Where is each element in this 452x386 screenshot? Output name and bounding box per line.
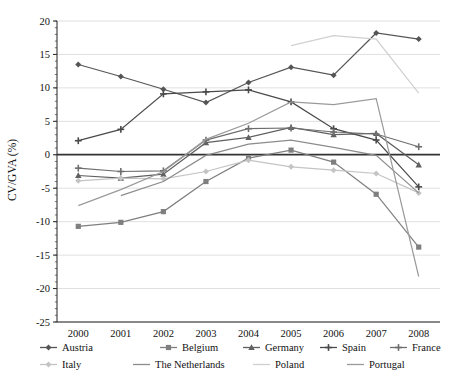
x-axis-tick-label: 2004 (238, 328, 260, 339)
data-point-marker (118, 220, 123, 225)
y-axis-tick-label: 10 (40, 82, 51, 93)
y-axis-tick-label: 15 (40, 49, 51, 60)
y-axis-tick-label: 0 (45, 149, 50, 160)
data-point-marker (76, 224, 81, 229)
x-axis-tick-labels: 200020012002200320042005200620072008 (68, 328, 429, 339)
x-axis-tick-label: 2001 (110, 328, 131, 339)
y-axis-tick-label: -10 (36, 216, 50, 227)
line-chart: 20151050-5-10-15-20-25 20002001200220032… (0, 0, 452, 386)
data-point-marker (374, 192, 379, 197)
data-point-marker (166, 345, 171, 350)
x-axis-tick-label: 2006 (323, 328, 344, 339)
y-axis-tick-label: -15 (36, 250, 50, 261)
y-axis-tick-label: -20 (36, 283, 50, 294)
y-axis-tick-label: 20 (40, 16, 51, 27)
y-axis-tick-label: -25 (36, 317, 50, 328)
legend-label: France (412, 342, 441, 353)
data-point-marker (416, 244, 421, 249)
y-axis-tick-label: 5 (45, 116, 50, 127)
data-point-marker (161, 209, 166, 214)
legend-label: Poland (275, 359, 305, 370)
x-axis-tick-label: 2007 (366, 328, 387, 339)
legend-label: Austria (62, 342, 93, 353)
x-axis-tick-label: 2000 (68, 328, 89, 339)
x-axis-tick-label: 2005 (281, 328, 302, 339)
data-point-marker (288, 147, 293, 152)
data-point-marker (203, 179, 208, 184)
legend-label: Portugal (369, 359, 405, 370)
legend-label: Belgium (182, 342, 218, 353)
y-axis-tick-label: -5 (41, 183, 50, 194)
x-axis-tick-label: 2002 (153, 328, 174, 339)
x-axis-tick-label: 2008 (408, 328, 429, 339)
chart-container: 20151050-5-10-15-20-25 20002001200220032… (0, 0, 452, 386)
y-axis-title: CV/GVA (%) (6, 139, 19, 201)
legend-label: The Netherlands (155, 359, 225, 370)
legend-label: Spain (342, 342, 367, 353)
legend-label: Italy (62, 359, 82, 370)
data-point-marker (331, 160, 336, 165)
x-axis-tick-label: 2003 (195, 328, 216, 339)
legend-label: Germany (265, 342, 305, 353)
